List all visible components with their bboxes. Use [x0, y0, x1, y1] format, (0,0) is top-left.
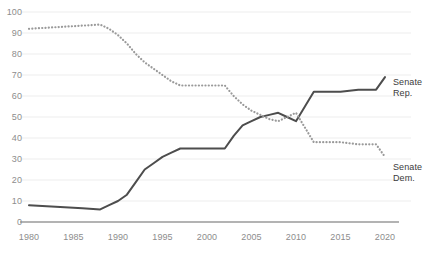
series-label-line1: Senate — [393, 162, 423, 173]
x-tick-label: 2010 — [279, 233, 313, 242]
series-label-line2: Dem. — [393, 173, 423, 184]
series-label-line2: Rep. — [393, 88, 423, 99]
x-tick-label: 2020 — [368, 233, 402, 242]
y-tick-label: 30 — [0, 155, 22, 164]
y-tick-label: 60 — [0, 92, 22, 101]
series-label-line1: Senate — [393, 77, 423, 88]
series-line-senate-dem — [29, 25, 385, 157]
y-tick-label: 40 — [0, 134, 22, 143]
chart-plot-area — [0, 0, 423, 265]
y-tick-label: 0 — [0, 218, 22, 227]
line-chart: 0102030405060708090100 19801985199019952… — [0, 0, 423, 265]
y-tick-label: 20 — [0, 176, 22, 185]
x-tick-label: 1990 — [101, 233, 135, 242]
x-tick-label: 2005 — [235, 233, 269, 242]
y-tick-label: 50 — [0, 113, 22, 122]
x-tick-label: 1985 — [57, 233, 91, 242]
series-line-senate-rep — [29, 77, 385, 209]
gridlines — [22, 12, 411, 201]
y-tick-label: 100 — [0, 8, 22, 17]
x-tick-label: 1995 — [146, 233, 180, 242]
series-label-senate-dem: SenateDem. — [393, 162, 423, 184]
y-tick-label: 90 — [0, 29, 22, 38]
series-label-senate-rep: SenateRep. — [393, 77, 423, 99]
y-tick-label: 70 — [0, 71, 22, 80]
y-tick-label: 80 — [0, 50, 22, 59]
y-tick-label: 10 — [0, 197, 22, 206]
x-tick-label: 2000 — [190, 233, 224, 242]
x-tick-label: 1980 — [12, 233, 46, 242]
x-tick-label: 2015 — [324, 233, 358, 242]
